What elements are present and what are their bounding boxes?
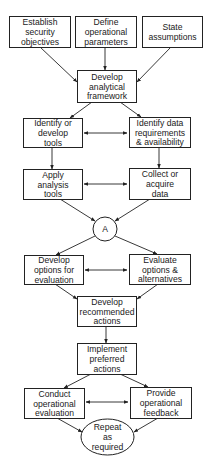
node-label-line: analysis [37, 180, 68, 190]
arrow-n4-to-n6 [120, 102, 141, 117]
node-label-line: alternatives [138, 274, 182, 284]
arrow-n12-to-n14 [120, 374, 148, 387]
node-label-line: options for [34, 265, 74, 275]
node-label-line: Develop [91, 297, 123, 307]
node-label-line: Evaluate [143, 255, 177, 265]
node-label-line: Repeat [94, 422, 122, 432]
node-label-line: objectives [21, 37, 59, 47]
node-provide-operational-feedback: Provideoperationalfeedback [131, 388, 192, 419]
node-label-line: tools [44, 138, 62, 148]
node-evaluate-options-alternatives: Evaluateoptions &alternatives [130, 255, 191, 285]
node-conduct-operational-evaluation: Conductoperationalevaluation [25, 389, 85, 419]
node-label-line: Provide [146, 388, 175, 398]
node-identify-or-develop-tools: Identify ordeveloptools [24, 118, 83, 147]
node-label-line: develop [38, 128, 68, 138]
nodes-layer: EstablishsecurityobjectivesDefineoperati… [10, 17, 203, 456]
node-label-line: Develop [91, 72, 123, 82]
node-label-line: recommended [80, 307, 135, 317]
node-label-line: Apply [42, 170, 64, 180]
flowchart-diagram: EstablishsecurityobjectivesDefineoperati… [0, 0, 210, 472]
node-define-operational-parameters: Defineoperationalparameters [76, 17, 137, 48]
node-a: A [93, 217, 117, 241]
node-label-line: operational [33, 399, 76, 409]
arrow-n10-to-n11 [137, 284, 158, 299]
node-label-line: options & [142, 265, 178, 275]
node-label-line: operational [140, 398, 183, 408]
node-repeat-as-required: Repeatasrequired [81, 419, 134, 455]
node-label-line: tools [44, 189, 62, 199]
node-identify-data-requirements-availability: Identify datarequirements& availability [130, 118, 191, 148]
arrow-n14-to-n15 [134, 418, 158, 432]
node-label-line: A [102, 224, 108, 234]
arrow-n7-to-nA [60, 199, 95, 221]
node-implement-preferred-actions: Implementpreferredactions [78, 344, 137, 375]
node-label-line: State [162, 22, 182, 32]
node-label-line: analytical [89, 82, 125, 92]
node-label-line: parameters [84, 37, 127, 47]
node-label-line: evaluation [35, 408, 74, 418]
node-label-line: Identify or [34, 118, 72, 128]
node-label-line: as [103, 432, 112, 442]
node-collect-or-acquire-data: Collect oracquiredata [130, 169, 191, 200]
node-label-line: Identify data [137, 118, 184, 128]
node-label-line: feedback [144, 408, 180, 418]
arrow-n12-to-n13 [64, 374, 91, 388]
node-label-line: actions [93, 364, 120, 374]
node-label-line: & availability [136, 137, 184, 147]
node-label-line: Implement [87, 344, 128, 354]
node-state-assumptions: Stateassumptions [143, 17, 203, 48]
arrow-nA-to-n9 [56, 236, 95, 255]
node-label-line: Collect or [142, 169, 178, 179]
node-develop-recommended-actions: Developrecommendedactions [78, 297, 137, 327]
node-label-line: Develop [38, 255, 70, 265]
node-label-line: assumptions [148, 32, 196, 42]
node-establish-security-objectives: Establishsecurityobjectives [10, 17, 71, 48]
node-label-line: preferred [90, 354, 125, 364]
arrow-n9-to-n11 [55, 284, 77, 299]
node-label-line: requirements [135, 128, 185, 138]
arrow-n1-to-n4 [40, 47, 77, 82]
node-label-line: operational [85, 27, 128, 37]
arrow-n4-to-n5 [70, 102, 92, 118]
node-label-line: data [152, 189, 169, 199]
node-develop-options-for-evaluation: Developoptions forevaluation [25, 255, 84, 284]
node-label-line: acquire [146, 179, 174, 189]
node-label-line: evaluation [34, 275, 73, 285]
arrow-nA-to-n10 [115, 236, 157, 254]
node-develop-analytical-framework: Developanalyticalframework [78, 71, 137, 103]
arrow-n3-to-n4 [137, 47, 171, 82]
node-label-line: Establish [23, 17, 58, 27]
node-label-line: Define [94, 17, 119, 27]
arrow-n8-to-nA [115, 199, 150, 221]
arrow-n13-to-n15 [57, 418, 82, 432]
node-label-line: security [25, 27, 55, 37]
node-label-line: actions [93, 316, 120, 326]
node-label-line: framework [87, 91, 128, 101]
node-apply-analysis-tools: Applyanalysistools [24, 170, 83, 200]
node-label-line: required [92, 442, 124, 452]
node-label-line: Conduct [38, 389, 71, 399]
